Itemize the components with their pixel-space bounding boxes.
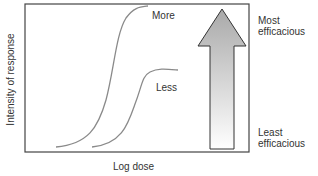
label-least-line2: efficacious	[258, 138, 305, 149]
y-axis-label: Intensity of response	[5, 30, 16, 130]
efficacy-diagram: More Less Most efficacious Least efficac…	[0, 0, 318, 176]
label-less: Less	[156, 82, 177, 93]
label-most-efficacious: Most efficacious	[258, 15, 305, 37]
label-more: More	[152, 10, 175, 21]
label-least-efficacious: Least efficacious	[258, 127, 305, 149]
label-most-line1: Most	[258, 15, 305, 26]
label-least-line1: Least	[258, 127, 305, 138]
x-axis-label: Log dose	[113, 161, 154, 172]
label-most-line2: efficacious	[258, 26, 305, 37]
